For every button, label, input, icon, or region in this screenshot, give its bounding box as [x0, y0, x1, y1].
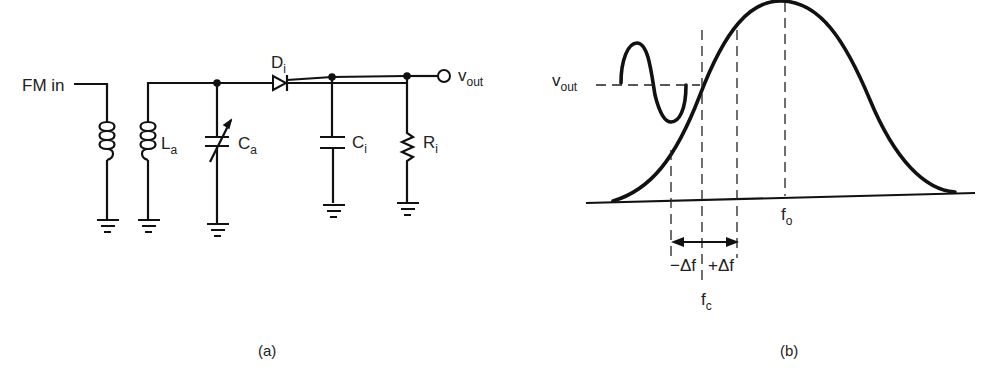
input-wire — [74, 84, 107, 122]
variable-capacitor-icon — [205, 83, 231, 224]
load-resistor-icon — [402, 76, 413, 203]
deviation-arrow-icon — [671, 237, 739, 247]
ground-icon — [97, 220, 119, 232]
caption-b: (b) — [780, 342, 798, 359]
output-terminal-icon — [438, 70, 450, 82]
ground-icon — [323, 205, 345, 217]
plus-df-label: +Δf — [708, 256, 734, 275]
input-sine-wave — [621, 43, 686, 122]
fc-label: fc — [701, 290, 712, 313]
secondary-top-wire — [148, 83, 217, 122]
minus-df-label: −Δf — [670, 256, 696, 275]
fo-label: fo — [781, 205, 793, 228]
ground-icon — [138, 220, 160, 232]
ground-icon — [397, 203, 419, 215]
frequency-axis — [586, 193, 975, 203]
filter-capacitor-icon — [320, 77, 345, 203]
resonance-curve — [613, 1, 955, 201]
vout-label-a: vout — [458, 66, 484, 89]
vout-label-b: vout — [552, 71, 578, 94]
la-label: La — [161, 134, 177, 157]
caption-a: (a) — [258, 342, 276, 359]
diode-icon — [273, 75, 287, 91]
ca-label: Ca — [238, 134, 257, 157]
ci-label: Ci — [352, 133, 367, 156]
di-label: Di — [271, 53, 286, 76]
secondary-inductor-icon — [141, 122, 156, 220]
response-curve-b: vout −Δf +Δf fc fo (b) — [552, 1, 975, 359]
circuit-a: FM in La Ca — [22, 53, 484, 359]
diagram-canvas: FM in La Ca — [0, 0, 995, 379]
ground-icon — [207, 224, 229, 236]
primary-inductor-icon — [100, 122, 115, 220]
ri-label: Ri — [423, 133, 438, 156]
fm-in-label: FM in — [22, 76, 65, 95]
